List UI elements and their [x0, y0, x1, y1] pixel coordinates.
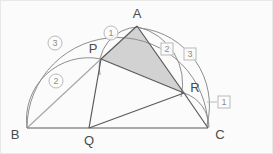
boxed-label-3: 3 — [184, 48, 197, 61]
segment-QR — [89, 93, 184, 128]
segment-BP — [27, 59, 101, 128]
boxed-label-2: 2 — [161, 43, 174, 56]
segment-PQ — [89, 59, 101, 128]
circled-label-2: 2 — [49, 74, 64, 89]
geometry-figure — [1, 1, 273, 154]
circled-label-3: 3 — [48, 36, 63, 51]
geometry-diagram-canvas: A B C P Q R 1 2 3 1 2 3 — [0, 0, 273, 154]
circled-label-1: 1 — [104, 26, 119, 41]
boxed-label-1: 1 — [218, 96, 231, 109]
